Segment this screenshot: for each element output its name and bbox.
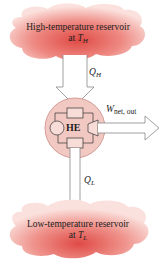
heat-engine-label: HE bbox=[66, 122, 80, 133]
heat-out-label: QL bbox=[84, 175, 95, 189]
low-reservoir-label: Low-temperature reservoir at TL bbox=[14, 219, 142, 244]
work-out-arrow bbox=[98, 116, 159, 140]
low-reservoir-line2: at TL bbox=[14, 230, 142, 244]
heat-in-label: QH bbox=[89, 67, 101, 81]
high-temp-subscript: H bbox=[83, 37, 88, 45]
high-reservoir-label: High-temperature reservoir at TH bbox=[14, 22, 142, 47]
low-reservoir-line1: Low-temperature reservoir bbox=[14, 219, 142, 230]
work-out-label: Wnet, out bbox=[106, 104, 136, 117]
high-reservoir-line1: High-temperature reservoir bbox=[14, 22, 142, 33]
high-reservoir-line2: at TH bbox=[14, 33, 142, 47]
low-temp-subscript: L bbox=[83, 234, 87, 242]
